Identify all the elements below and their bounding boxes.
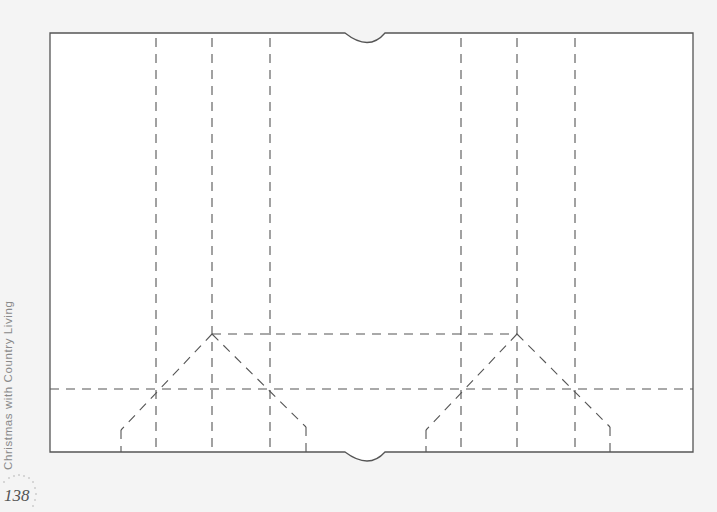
page-number: 138 xyxy=(4,486,30,506)
template-outline xyxy=(50,33,693,461)
book-title-vertical: Christmas with Country Living xyxy=(2,300,14,470)
envelope-template-diagram xyxy=(0,0,717,512)
